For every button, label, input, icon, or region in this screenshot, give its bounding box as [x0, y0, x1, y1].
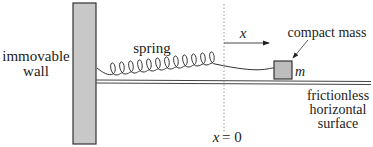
spring-label: spring — [133, 40, 171, 56]
origin-x-symbol: x — [212, 129, 220, 145]
compact-mass — [274, 61, 292, 79]
mass-spring-diagram: immovable wall spring x compact mass m f… — [0, 0, 373, 147]
surface-label-line1: frictionless — [307, 88, 369, 103]
origin-label: x = 0 — [212, 129, 242, 145]
frictionless-surface — [96, 80, 371, 85]
surface-label-line3: surface — [318, 116, 358, 131]
surface-label-line2: horizontal — [310, 102, 367, 117]
displacement-label: x — [239, 25, 247, 41]
mass-symbol: m — [295, 64, 305, 79]
wall-label-line2: wall — [23, 63, 49, 79]
wall-label-line1: immovable — [2, 48, 70, 64]
mass-pointer-arrow — [293, 40, 308, 58]
mass-label: compact mass — [288, 25, 367, 40]
spring — [97, 52, 274, 75]
immovable-wall — [73, 3, 96, 144]
origin-equals-zero: = 0 — [222, 129, 242, 145]
